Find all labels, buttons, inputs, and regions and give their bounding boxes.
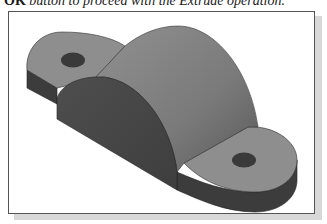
bracket-model-image: [0, 0, 327, 224]
right-hole: [232, 153, 256, 168]
left-hole: [61, 53, 85, 68]
